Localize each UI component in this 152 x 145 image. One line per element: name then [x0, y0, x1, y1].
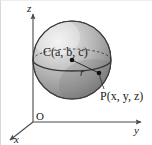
point-label: P(x, y, z): [100, 89, 143, 103]
center-label: C(a, b, c): [43, 45, 88, 59]
origin-label: O: [36, 110, 44, 122]
radius-label: r: [80, 67, 84, 78]
x-axis-label: x: [13, 133, 19, 145]
z-axis-label: z: [26, 2, 32, 14]
diagram-canvas: C(a, b, c) r P(x, y, z) z y x O: [1, 1, 152, 145]
y-axis-label: y: [133, 124, 139, 136]
surface-point-marker: [97, 71, 102, 76]
sphere-coordinate-diagram: C(a, b, c) r P(x, y, z) z y x O: [0, 0, 152, 145]
